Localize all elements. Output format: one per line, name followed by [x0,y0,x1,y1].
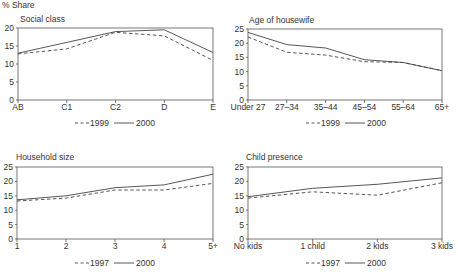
y-tick-label: 0 [8,234,13,244]
chart-legend: 19992000 [75,118,155,128]
x-tick-label: 55–64 [391,102,415,112]
x-tick-label: C1 [61,102,72,112]
x-tick-label: 5+ [208,241,218,251]
legend-label-1997: 1997 [321,258,340,268]
chart-legend: 19972000 [306,258,386,268]
chart-title: Age of housewife [249,15,314,25]
y-tick-label: 20 [235,38,245,48]
legend-label-2000: 2000 [136,258,155,268]
x-tick-label: 27–34 [275,102,299,112]
x-tick-label: 65+ [435,102,449,112]
y-tick-label: 15 [5,41,15,51]
x-tick-label: 2 kids [366,241,388,251]
x-tick-label: D [161,102,167,112]
legend-label-1997: 1997 [90,258,109,268]
chart-household-size: Household size051015202512345+19972000 [4,152,218,268]
x-tick-label: E [210,102,216,112]
y-tick-label: 10 [5,59,15,69]
chart-title: Child presence [246,152,303,162]
y-tick-label: 25 [235,24,245,34]
chart-figure: % Share Social class05101520ABC1C2DE1999… [0,0,458,279]
x-tick-label: 3 kids [431,241,453,251]
y-tick-label: 20 [235,176,245,186]
legend-label-2000: 2000 [367,118,386,128]
y-tick-label: 10 [235,205,245,215]
legend-label-2000: 2000 [367,258,386,268]
x-tick-label: AB [12,102,24,112]
legend-label-1999: 1999 [321,118,340,128]
y-tick-label: 15 [235,52,245,62]
plot-frame [248,167,442,239]
y-tick-label: 25 [4,162,14,172]
series-line-2000 [18,30,213,53]
legend-label-1999: 1999 [90,118,109,128]
y-tick-label: 5 [8,220,13,230]
x-tick-label: 45–54 [353,102,377,112]
chart-legend: 19972000 [75,258,155,268]
x-tick-label: Under 27 [231,102,266,112]
y-tick-label: 5 [239,81,244,91]
y-axis-label: % Share [2,0,35,10]
y-tick-label: 20 [4,176,14,186]
chart-child-presence: Child presence0510152025No kids1 child2 … [234,152,453,268]
x-tick-label: C2 [110,102,121,112]
y-tick-label: 15 [235,191,245,201]
chart-age-of-housewife: Age of housewife0510152025Under 2727–343… [231,15,450,128]
series-line-1997 [248,183,442,198]
x-tick-label: 35–44 [314,102,338,112]
y-tick-label: 10 [235,67,245,77]
y-tick-label: 25 [235,162,245,172]
series-line-1997 [17,183,213,201]
series-line-2000 [248,32,442,70]
y-tick-label: 20 [5,23,15,33]
chart-legend: 19992000 [306,118,386,128]
x-tick-label: 2 [64,241,69,251]
legend-label-2000: 2000 [136,118,155,128]
charts-canvas: Social class05101520ABC1C2DE19992000 Age… [0,0,458,279]
x-tick-label: No kids [234,241,262,251]
chart-social-class: Social class05101520ABC1C2DE19992000 [5,14,217,128]
y-tick-label: 5 [239,220,244,230]
y-tick-label: 5 [9,77,14,87]
chart-title: Social class [20,14,65,24]
x-tick-label: 1 [15,241,20,251]
chart-title: Household size [16,152,74,162]
series-line-2000 [17,174,213,200]
y-tick-label: 10 [4,205,14,215]
y-tick-label: 15 [4,191,14,201]
x-tick-label: 1 child [300,241,325,251]
x-tick-label: 3 [113,241,118,251]
plot-frame [17,167,213,239]
x-tick-label: 4 [162,241,167,251]
